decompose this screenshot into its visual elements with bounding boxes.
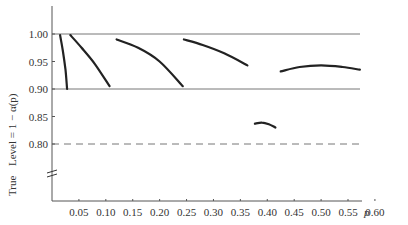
x-tick-label: 0.15 (123, 206, 143, 218)
curve-segment-6 (255, 123, 276, 128)
x-tick-labels: 0.050.100.150.200.250.300.350.400.450.50… (69, 206, 385, 218)
x-axis-title: p (363, 206, 370, 218)
x-tick-label: 0.40 (258, 206, 278, 218)
curve-segment-1 (60, 35, 67, 89)
x-tick-label: 0.35 (231, 206, 251, 218)
x-tick-label: 0.50 (311, 206, 331, 218)
y-tick-label: 0.80 (29, 138, 49, 150)
y-tick-label: 0.90 (29, 83, 49, 95)
x-tick-label: 0.20 (150, 206, 170, 218)
curve-segment-3 (117, 40, 183, 87)
x-tick-label: 0.10 (96, 206, 116, 218)
x-tick-label: 0.30 (204, 206, 224, 218)
coverage-chart: 0.050.100.150.200.250.300.350.400.450.50… (0, 0, 408, 225)
reference-lines (52, 34, 360, 144)
data-curves (60, 35, 360, 127)
y-tick-label: 0.85 (29, 111, 49, 123)
x-tick-label: 0.25 (177, 206, 197, 218)
curve-segment-2 (70, 35, 109, 86)
y-axis-title-true: True (6, 176, 18, 196)
y-tick-labels: 0.800.850.900.951.00 (29, 28, 49, 150)
axes (47, 6, 375, 201)
curve-segment-4 (184, 40, 248, 66)
y-axis-title-level: Level = 1 − α(p) (6, 93, 19, 166)
curve-segment-5 (281, 65, 360, 71)
x-tick-label: 0.45 (285, 206, 305, 218)
y-tick-label: 0.95 (29, 56, 49, 68)
x-tick-label: 0.05 (69, 206, 89, 218)
x-tick-label: 0.55 (338, 206, 358, 218)
y-tick-label: 1.00 (29, 28, 49, 40)
